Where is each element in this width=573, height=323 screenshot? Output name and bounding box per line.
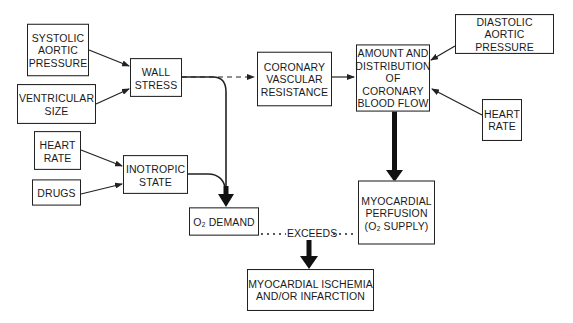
- edge-heartrate-to-inotropic: [81, 150, 122, 166]
- node-myocardial-perfusion: MYOCARDIAL PERFUSION (O₂ SUPPLY): [358, 180, 435, 244]
- node-systolic-aortic-pressure: SYSTOLIC AORTIC PRESSURE: [27, 24, 89, 77]
- arrowhead-ischemia: [300, 256, 318, 269]
- node-heart-rate-left: HEART RATE: [34, 131, 81, 170]
- edge-diastolic-to-bloodflow: [431, 46, 455, 60]
- exceeds-label: EXCEEDS: [287, 227, 337, 239]
- edge-bloodflow-to-perfusion: [392, 110, 397, 172]
- node-inotropic-state: INOTROPIC STATE: [123, 155, 188, 194]
- edge-heartrate-right-to-bloodflow: [432, 89, 482, 115]
- edge-inotropic-to-o2demand: [188, 174, 226, 192]
- edge-exceeds-to-ischemia: [307, 240, 312, 258]
- node-ventricular-size: VENTRICULAR SIZE: [17, 84, 96, 124]
- node-coronary-vascular-resistance: CORONARY VASCULAR RESISTANCE: [257, 52, 332, 107]
- node-diastolic-aortic-pressure: DIASTOLIC AORTIC PRESSURE: [455, 14, 554, 54]
- node-wall-stress: WALL STRESS: [130, 58, 182, 97]
- node-coronary-blood-flow: AMOUNT AND DISTRIBUTION OF CORONARY BLOO…: [356, 44, 430, 111]
- node-heart-rate-right: HEART RATE: [482, 99, 522, 141]
- edge-systolic-to-wallstress: [89, 50, 129, 66]
- edge-drugs-to-inotropic: [81, 184, 122, 194]
- edge-wallstress-to-o2demand: [182, 77, 226, 198]
- edge-ventricular-to-wallstress: [96, 89, 129, 104]
- node-drugs: DRUGS: [32, 179, 81, 205]
- node-myocardial-ischemia: MYOCARDIAL ISCHEMIA AND/OR INFARCTION: [247, 269, 374, 311]
- node-o2-demand: O₂ DEMAND: [189, 207, 259, 235]
